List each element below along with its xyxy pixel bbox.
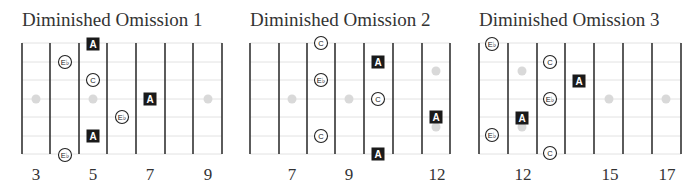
fret-number: 12	[429, 165, 446, 184]
interval-note-e-flat: E♭	[486, 38, 499, 51]
note-label: A	[374, 149, 381, 160]
fretboards: 3579AE♭CAE♭AE♭7912CAE♭CACA121517E♭CAE♭AE…	[0, 0, 699, 191]
root-note-a: A	[372, 148, 385, 161]
inlay-dot-icon	[204, 95, 213, 104]
inlay-dot-icon	[89, 95, 98, 104]
inlay-dot-icon	[288, 95, 297, 104]
note-label: A	[575, 76, 582, 87]
fret-number: 17	[659, 165, 677, 184]
note-label: C	[547, 149, 553, 158]
root-note-a: A	[144, 93, 157, 106]
note-label: E♭	[118, 113, 127, 122]
interval-note-c: C	[544, 147, 557, 160]
inlay-dot-icon	[518, 67, 527, 76]
fret-number: 5	[89, 165, 98, 184]
note-label: A	[432, 112, 439, 123]
note-label: C	[318, 132, 324, 141]
note-label: A	[146, 94, 153, 105]
root-note-a: A	[87, 38, 100, 51]
note-label: A	[374, 57, 381, 68]
inlay-dot-icon	[32, 95, 41, 104]
note-label: E♭	[61, 151, 70, 160]
fretboard-2: 7912CAE♭CACA	[250, 37, 450, 185]
interval-note-e-flat: E♭	[315, 74, 328, 87]
note-label: C	[547, 58, 553, 67]
note-label: E♭	[488, 40, 497, 49]
interval-note-e-flat: E♭	[116, 111, 129, 124]
note-label: C	[90, 76, 96, 85]
fretboard-3: 121517E♭CAE♭AE♭C	[479, 38, 681, 185]
note-label: A	[89, 131, 96, 142]
interval-note-e-flat: E♭	[59, 149, 72, 162]
fret-number: 9	[345, 165, 354, 184]
inlay-dot-icon	[605, 95, 614, 104]
interval-note-c: C	[315, 130, 328, 143]
fret-number: 7	[288, 165, 297, 184]
interval-note-c: C	[87, 74, 100, 87]
note-label: E♭	[488, 131, 497, 140]
note-label: C	[318, 39, 324, 48]
fretboard-1: 3579AE♭CAE♭AE♭	[22, 38, 222, 185]
fret-number: 9	[204, 165, 213, 184]
interval-note-c: C	[372, 93, 385, 106]
inlay-dot-icon	[432, 67, 441, 76]
inlay-dot-icon	[345, 95, 354, 104]
root-note-a: A	[372, 56, 385, 69]
root-note-a: A	[430, 111, 443, 124]
interval-note-c: C	[315, 37, 328, 50]
root-note-a: A	[516, 112, 529, 125]
root-note-a: A	[573, 75, 586, 88]
note-label: A	[89, 39, 96, 50]
interval-note-e-flat: E♭	[486, 129, 499, 142]
fret-number: 7	[146, 165, 155, 184]
note-label: E♭	[317, 76, 326, 85]
inlay-dot-icon	[662, 95, 671, 104]
note-label: E♭	[546, 95, 555, 104]
interval-note-c: C	[544, 56, 557, 69]
inlay-dot-icon	[432, 123, 441, 132]
fret-number: 12	[515, 165, 532, 184]
note-label: A	[518, 113, 525, 124]
note-label: C	[375, 95, 381, 104]
root-note-a: A	[87, 130, 100, 143]
interval-note-e-flat: E♭	[59, 56, 72, 69]
fret-number: 3	[32, 165, 41, 184]
interval-note-e-flat: E♭	[544, 93, 557, 106]
note-label: E♭	[61, 58, 70, 67]
fret-number: 15	[602, 165, 619, 184]
